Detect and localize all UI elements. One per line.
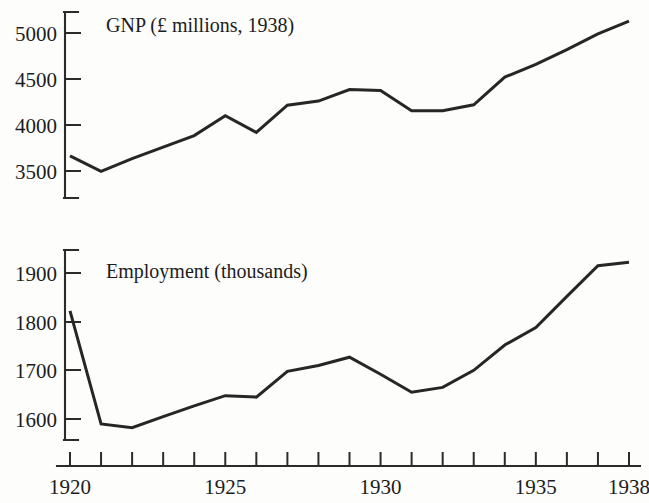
x-axis-label-1920: 1920 — [49, 475, 91, 499]
x-axis-ticks — [70, 452, 629, 466]
x-axis: 19201925193019351938 — [49, 452, 649, 499]
employment-y-axis — [64, 250, 78, 440]
employment-ytick-label-1900: 1900 — [15, 262, 57, 286]
gnp-ytick-label-5000: 5000 — [15, 22, 57, 46]
employment-panel: 1900 1800 1700 1600 Employment (thousand… — [15, 250, 629, 440]
gnp-y-ticks — [65, 33, 81, 171]
x-axis-label-1930: 1930 — [360, 475, 402, 499]
employment-ytick-label-1700: 1700 — [15, 359, 57, 383]
employment-ytick-label-1800: 1800 — [15, 311, 57, 335]
x-axis-label-1925: 1925 — [204, 475, 246, 499]
employment-ytick-label-1600: 1600 — [15, 408, 57, 432]
gnp-ytick-label-3500: 3500 — [15, 160, 57, 184]
x-axis-tick-labels: 19201925193019351938 — [49, 475, 649, 499]
x-axis-label-1935: 1935 — [515, 475, 557, 499]
gnp-ytick-label-4000: 4000 — [15, 114, 57, 138]
gnp-y-tick-labels: 5000 4500 4000 3500 — [15, 22, 57, 184]
gnp-panel: 5000 4500 4000 3500 GNP (£ millions, 193… — [15, 12, 629, 198]
gnp-ytick-label-4500: 4500 — [15, 68, 57, 92]
gnp-data-line — [70, 21, 629, 171]
employment-y-tick-labels: 1900 1800 1700 1600 — [15, 262, 57, 432]
x-axis-label-1938: 1938 — [608, 475, 649, 499]
employment-panel-title: Employment (thousands) — [106, 260, 308, 283]
figure-page: 5000 4500 4000 3500 GNP (£ millions, 193… — [0, 0, 649, 503]
gnp-panel-title: GNP (£ millions, 1938) — [106, 14, 294, 37]
employment-data-line — [70, 262, 629, 427]
two-panel-line-figure: 5000 4500 4000 3500 GNP (£ millions, 193… — [0, 0, 649, 503]
